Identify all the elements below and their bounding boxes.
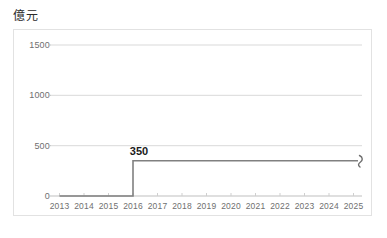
x-tick-label-2019: 2019: [197, 201, 217, 211]
y-axis-unit-title: 億元: [13, 6, 38, 23]
y-tick-label-1000: 1000: [16, 90, 50, 100]
x-tick-label-2025: 2025: [344, 201, 364, 211]
x-tick-label-2016: 2016: [123, 201, 143, 211]
x-tick-label-2021: 2021: [246, 201, 266, 211]
x-tick-label-2014: 2014: [74, 201, 94, 211]
chart-container: 億元 1500 1000 500 0 2013 2014 2015 2016 2…: [0, 0, 387, 238]
x-tick-label-2013: 2013: [50, 201, 70, 211]
y-tick-label-0: 0: [16, 191, 50, 201]
x-tick-label-2023: 2023: [295, 201, 315, 211]
x-tick-label-2020: 2020: [221, 201, 241, 211]
y-tick-label-1500: 1500: [16, 40, 50, 50]
x-tick-label-2024: 2024: [319, 201, 339, 211]
data-label-350: 350: [130, 145, 148, 157]
x-tick-label-2022: 2022: [270, 201, 290, 211]
plot-area-frame: [13, 29, 372, 216]
x-tick-label-2017: 2017: [148, 201, 168, 211]
x-tick-label-2018: 2018: [172, 201, 192, 211]
x-tick-label-2015: 2015: [99, 201, 119, 211]
y-tick-label-500: 500: [16, 141, 50, 151]
